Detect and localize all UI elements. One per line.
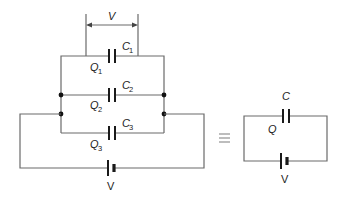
svg-text:2: 2 xyxy=(98,105,102,114)
battery-loop: V xyxy=(20,114,204,192)
equivalence-icon xyxy=(219,134,230,142)
capacitor-c2-branch: C 2 Q 2 xyxy=(61,79,164,114)
circuit-svg: V C 1 Q 1 C 2 Q 2 C 3 Q 3 xyxy=(0,0,342,203)
junction-dots xyxy=(59,93,167,117)
equivalent-battery-label: V xyxy=(281,173,289,185)
capacitor-c1-branch: C 1 Q 1 xyxy=(61,40,164,95)
equivalent-capacitor-label: C xyxy=(282,90,290,102)
svg-text:3: 3 xyxy=(98,144,102,153)
svg-text:1: 1 xyxy=(98,67,102,76)
voltage-label: V xyxy=(108,10,117,22)
svg-text:2: 2 xyxy=(129,85,133,94)
capacitor-c3-branch: C 3 Q 3 xyxy=(61,95,164,153)
battery-label: V xyxy=(107,180,115,192)
svg-text:3: 3 xyxy=(129,123,133,132)
equivalent-circuit: C Q V xyxy=(244,90,327,185)
circuit-diagram: V C 1 Q 1 C 2 Q 2 C 3 Q 3 xyxy=(0,0,342,203)
equivalent-charge-label: Q xyxy=(268,123,277,135)
svg-text:1: 1 xyxy=(129,46,133,55)
